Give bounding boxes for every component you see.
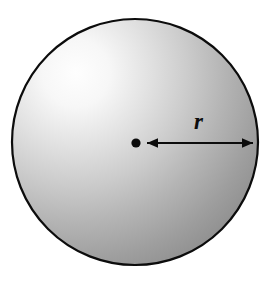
center-point [131,138,140,147]
radius-label: r [194,109,204,134]
sphere-radius-diagram: r [0,0,273,283]
figure-container: r [0,0,273,283]
